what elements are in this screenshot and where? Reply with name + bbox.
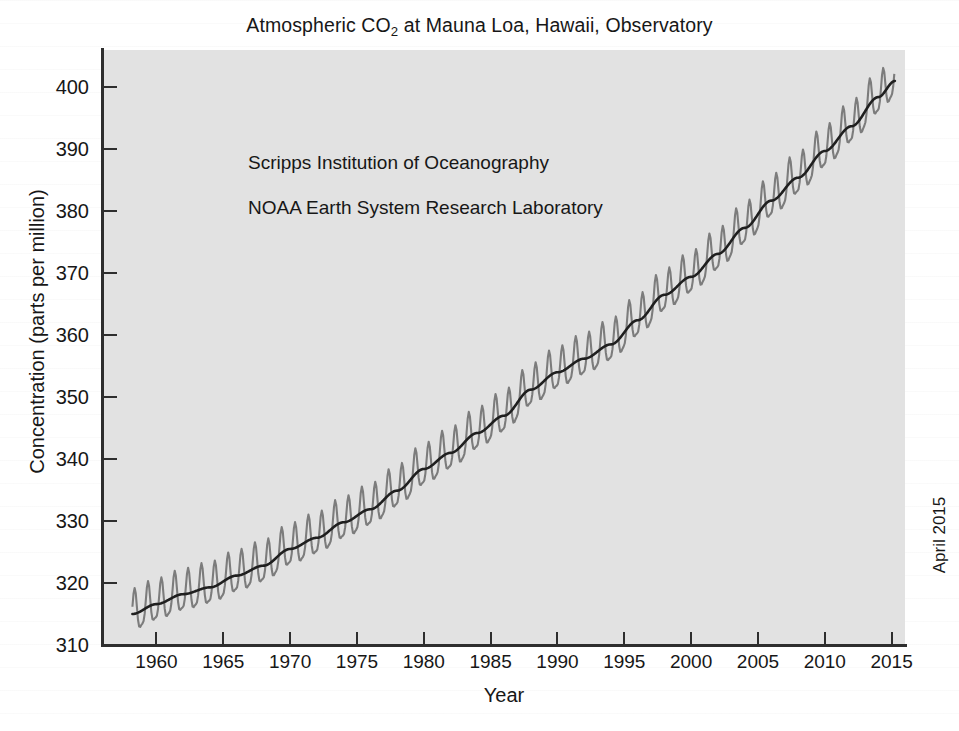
x-axis-tick-label: 2000 xyxy=(656,652,726,671)
x-axis-tick-mark xyxy=(690,632,692,644)
x-axis-tick-label: 1985 xyxy=(456,652,526,671)
chart-title-suffix: at Mauna Loa, Hawaii, Observatory xyxy=(398,14,712,36)
y-axis-tick-mark xyxy=(104,458,117,460)
x-axis-tick-mark xyxy=(289,632,291,644)
x-axis-spine xyxy=(101,644,907,647)
x-axis-tick-label: 2015 xyxy=(857,652,927,671)
y-axis-tick-mark xyxy=(104,520,117,522)
x-axis-tick-mark xyxy=(891,632,893,644)
x-axis-tick-mark xyxy=(423,632,425,644)
chart-title-prefix: Atmospheric CO xyxy=(246,14,390,36)
x-axis-tick-label: 1970 xyxy=(255,652,325,671)
x-axis-tick-label: 1995 xyxy=(589,652,659,671)
y-axis-tick-mark xyxy=(104,148,117,150)
x-axis-tick-mark xyxy=(556,632,558,644)
annotation-scripps: Scripps Institution of Oceanography xyxy=(248,152,549,174)
x-axis-title: Year xyxy=(103,684,905,707)
x-axis-tick-mark xyxy=(490,632,492,644)
y-axis-tick-label: 400 xyxy=(31,77,89,97)
co2-chart-figure: Atmospheric CO2 at Mauna Loa, Hawaii, Ob… xyxy=(0,0,959,731)
x-axis-tick-mark xyxy=(222,632,224,644)
y-axis-tick-mark xyxy=(104,396,117,398)
y-axis-tick-label: 320 xyxy=(31,573,89,593)
y-axis-title: Concentration (parts per million) xyxy=(26,112,49,552)
y-axis-tick-mark xyxy=(104,582,117,584)
x-axis-tick-mark xyxy=(623,632,625,644)
x-axis-tick-label: 1965 xyxy=(188,652,258,671)
date-stamp: April 2015 xyxy=(930,450,950,620)
x-axis-tick-label: 2010 xyxy=(790,652,860,671)
x-axis-tick-label: 1975 xyxy=(322,652,392,671)
y-axis-tick-mark xyxy=(104,210,117,212)
x-axis-tick-label: 1990 xyxy=(522,652,592,671)
data-series-canvas xyxy=(103,50,905,645)
x-axis-tick-mark xyxy=(824,632,826,644)
x-axis-tick-mark xyxy=(356,632,358,644)
x-axis-tick-label: 2005 xyxy=(723,652,793,671)
x-axis-tick-mark xyxy=(757,632,759,644)
y-axis-spine xyxy=(101,48,104,647)
y-axis-tick-mark xyxy=(104,334,117,336)
y-axis-tick-label: 310 xyxy=(31,635,89,655)
x-axis-tick-label: 1980 xyxy=(389,652,459,671)
y-axis-tick-mark xyxy=(104,86,117,88)
plot-area: Scripps Institution of Oceanography NOAA… xyxy=(103,50,905,645)
y-axis-tick-mark xyxy=(104,644,117,646)
x-axis-tick-label: 1960 xyxy=(121,652,191,671)
annotation-noaa: NOAA Earth System Research Laboratory xyxy=(248,197,603,219)
x-axis-tick-mark xyxy=(155,632,157,644)
chart-title: Atmospheric CO2 at Mauna Loa, Hawaii, Ob… xyxy=(0,14,959,39)
y-axis-tick-mark xyxy=(104,272,117,274)
